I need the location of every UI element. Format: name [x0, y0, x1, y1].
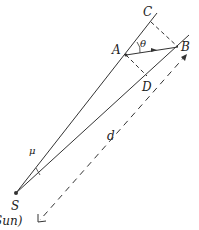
line-s-to-c [16, 13, 157, 193]
line-s-to-b [16, 35, 189, 193]
label-d-distance: d [107, 129, 115, 143]
label-s: S [11, 199, 19, 213]
point-a [125, 54, 128, 57]
label-c: C [143, 5, 152, 19]
label-d: D [141, 80, 152, 94]
dashed-c-to-b [151, 22, 178, 47]
point-s [14, 191, 18, 195]
arrowhead-up-icon [181, 54, 187, 61]
label-mu: μ [29, 145, 36, 156]
dashed-a-to-d [126, 55, 147, 76]
label-theta: θ [140, 38, 146, 49]
label-b: B [180, 40, 190, 54]
arrowhead-ab-icon [151, 48, 157, 52]
parallax-diagram: C A θ B D d μ S Sun) [0, 0, 199, 230]
label-sun: Sun) [0, 214, 23, 228]
label-a: A [111, 43, 121, 57]
